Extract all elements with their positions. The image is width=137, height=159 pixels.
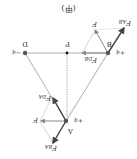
label-D: D xyxy=(22,40,28,48)
forces-at-A xyxy=(40,97,66,143)
charge-A: +q xyxy=(74,117,83,125)
label-A: A xyxy=(67,127,74,135)
label-P: P xyxy=(65,40,70,48)
figure-caption: (甲) xyxy=(61,4,75,13)
label-F-BA: FBA xyxy=(44,144,58,153)
charge-force-diagram: A +q B +q D −q P FBA FDA F FAB FDB F (甲) xyxy=(0,0,137,159)
label-F-A: F xyxy=(32,116,39,124)
charge-B: +q xyxy=(116,49,125,57)
point-D xyxy=(23,51,27,55)
forces-at-B xyxy=(82,28,124,53)
construction-line xyxy=(95,28,124,30)
label-F-B: F xyxy=(91,20,98,28)
point-B xyxy=(106,51,110,55)
arrow-F-resultant-B xyxy=(95,30,108,53)
construction-line xyxy=(40,121,53,143)
point-A xyxy=(64,119,68,123)
label-F-DA: FDA xyxy=(38,94,52,103)
point-P xyxy=(66,52,69,55)
label-B: B xyxy=(107,40,112,48)
construction-line xyxy=(82,30,95,53)
label-F-DB: FDB xyxy=(84,56,98,65)
arrow-F-BA xyxy=(53,121,66,143)
charge-D: −q xyxy=(12,49,21,57)
label-F-AB: FAB xyxy=(119,19,132,28)
arrow-F-DA xyxy=(53,98,66,121)
diagram-canvas: A +q B +q D −q P FBA FDA F FAB FDB F (甲) xyxy=(0,0,137,159)
